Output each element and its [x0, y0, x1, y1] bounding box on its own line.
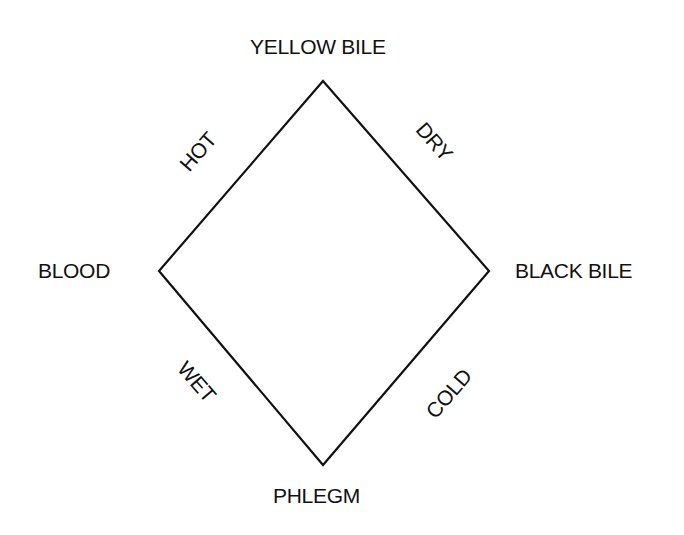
vertex-phlegm: PHLEGM: [273, 485, 360, 506]
vertex-blood: BLOOD: [38, 260, 110, 281]
vertex-black-bile: BLACK BILE: [515, 260, 632, 281]
vertex-yellow-bile: YELLOW BILE: [250, 36, 386, 57]
